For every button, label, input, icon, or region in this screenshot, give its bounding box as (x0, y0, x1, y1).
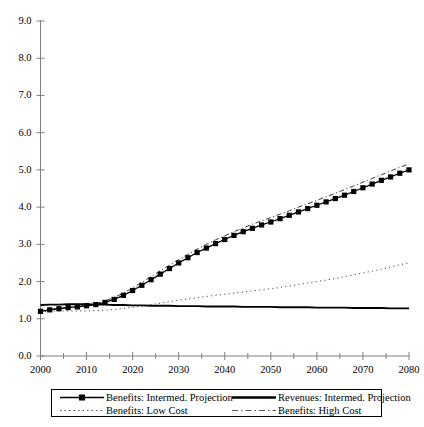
series-marker (185, 255, 190, 260)
series-marker (250, 226, 255, 231)
y-axis-tick-label: 6.0 (0, 127, 32, 138)
legend-swatch-dashdot-icon (230, 405, 278, 416)
series-marker (56, 306, 61, 311)
legend-entry-benefits-high-cost[interactable]: Benefits: High Cost (230, 404, 380, 417)
series-marker (397, 171, 402, 176)
series-marker (314, 203, 319, 208)
series-marker (388, 174, 393, 179)
series-marker (38, 309, 43, 314)
series-marker (195, 250, 200, 255)
y-axis-tick-label: 8.0 (0, 52, 32, 63)
series-marker (360, 185, 365, 190)
legend-label: Benefits: Low Cost (106, 405, 188, 416)
series-marker (259, 222, 264, 227)
y-axis-tick-label: 5.0 (0, 164, 32, 175)
x-axis-tick-label: 2010 (62, 364, 112, 375)
y-axis-tick-label: 2.0 (0, 276, 32, 287)
y-axis-tick-label: 3.0 (0, 238, 32, 249)
series-layer (38, 164, 412, 314)
series-marker (342, 193, 347, 198)
series-marker (370, 181, 375, 186)
x-axis-tick-label: 2000 (16, 364, 66, 375)
series-marker (47, 307, 52, 312)
y-axis-tick-label: 9.0 (0, 15, 32, 26)
legend-entry-revenues-intermed[interactable]: Revenues: Intermed. Projection (230, 391, 380, 404)
y-axis-tick-label: 4.0 (0, 201, 32, 212)
series-marker (222, 237, 227, 242)
series-marker (93, 302, 98, 307)
series-marker (323, 199, 328, 204)
legend-label: Benefits: High Cost (278, 405, 361, 416)
series-marker (379, 178, 384, 183)
series-marker (406, 167, 411, 172)
series-marker (241, 229, 246, 234)
series-marker (148, 277, 153, 282)
x-axis-tick-label: 2060 (292, 364, 342, 375)
series-marker (351, 189, 356, 194)
series-marker (287, 213, 292, 218)
y-axis-tick-label: 1.0 (0, 313, 32, 324)
legend-entry-benefits-intermed[interactable]: Benefits: Intermed. Projection (58, 391, 230, 404)
series-marker (231, 233, 236, 238)
series-marker (112, 297, 117, 302)
x-axis-tick-label: 2070 (338, 364, 388, 375)
legend-row: Benefits: Intermed. Projection Revenues:… (52, 391, 381, 404)
legend-swatch-solid-marker-icon (58, 392, 106, 403)
legend-swatch-thick-solid-icon (230, 392, 278, 403)
y-axis-tick-label: 0.0 (0, 350, 32, 361)
series-marker (296, 209, 301, 214)
series-marker (66, 305, 71, 310)
series-marker (305, 206, 310, 211)
legend-row: Benefits: Low Cost Benefits: High Cost (52, 404, 381, 417)
series-marker (204, 245, 209, 250)
series-marker (333, 196, 338, 201)
series-marker (139, 283, 144, 288)
series-marker (158, 272, 163, 277)
x-axis-tick-label: 2020 (108, 364, 158, 375)
series-marker (130, 288, 135, 293)
series-marker (102, 300, 107, 305)
x-axis-tick-label: 2040 (200, 364, 250, 375)
series-marker (268, 219, 273, 224)
x-axis-tick-label: 2030 (154, 364, 204, 375)
legend-label: Revenues: Intermed. Projection (278, 392, 411, 403)
y-axis-tick-label: 7.0 (0, 89, 32, 100)
chart-legend: Benefits: Intermed. Projection Revenues:… (51, 389, 382, 417)
x-axis-tick-label: 2080 (384, 364, 424, 375)
legend-entry-benefits-low-cost[interactable]: Benefits: Low Cost (58, 404, 230, 417)
series-marker (277, 216, 282, 221)
series-marker (75, 304, 80, 309)
series-marker (176, 260, 181, 265)
series-marker (84, 303, 89, 308)
series-marker (121, 293, 126, 298)
series-marker (167, 266, 172, 271)
legend-swatch-dotted-icon (58, 405, 106, 416)
x-axis-tick-label: 2050 (246, 364, 296, 375)
series-marker (213, 241, 218, 246)
legend-label: Benefits: Intermed. Projection (106, 392, 233, 403)
